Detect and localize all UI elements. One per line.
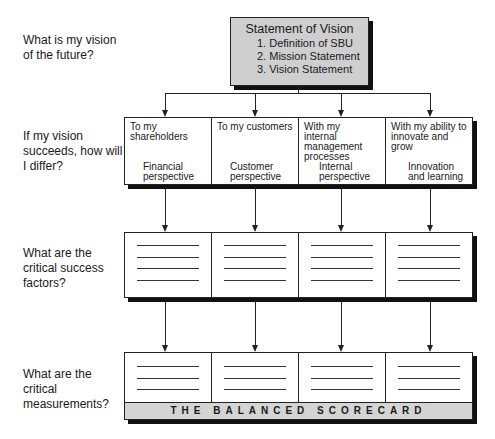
- perspective-customer: To my customers Customer perspective: [212, 118, 299, 184]
- connector: [341, 300, 342, 345]
- perspective-financial: To my shareholders Financial perspective: [125, 118, 212, 184]
- perspective-to: To my customers: [217, 122, 296, 132]
- arrow-down-icon: [252, 345, 258, 352]
- connector: [165, 187, 166, 225]
- perspective-name: Internal perspective: [319, 162, 379, 182]
- csf-cell: [386, 233, 472, 297]
- csf-cell: [299, 233, 386, 297]
- question-differ: If my vision succeeds, how will I differ…: [23, 129, 123, 174]
- question-measurements: What are the critical measurements?: [23, 367, 123, 412]
- arrow-down-icon: [338, 345, 344, 352]
- arrow-down-icon: [162, 225, 168, 232]
- perspectives-box: To my shareholders Financial perspective…: [124, 117, 473, 185]
- arrow-down-icon: [162, 345, 168, 352]
- vision-item: 1. Definition of SBU: [257, 37, 368, 50]
- perspective-internal: With my internal management processes In…: [299, 118, 386, 184]
- arrow-down-icon: [427, 345, 433, 352]
- connector: [298, 85, 299, 93]
- connector: [165, 93, 431, 94]
- vision-statement-box: Statement of Vision 1. Definition of SBU…: [230, 17, 369, 86]
- connector: [255, 187, 256, 225]
- success-factors-box: [124, 232, 473, 298]
- connector: [341, 93, 342, 111]
- balanced-scorecard-banner: THE BALANCED SCORECARD: [125, 403, 472, 419]
- vision-item: 2. Mission Statement: [257, 50, 368, 63]
- connector: [341, 187, 342, 225]
- question-success-factors: What are the critical success factors?: [23, 246, 123, 291]
- perspective-to: With my ability to innovate and grow: [391, 122, 471, 152]
- arrow-down-icon: [252, 225, 258, 232]
- perspective-name: Financial perspective: [143, 162, 203, 182]
- connector: [255, 300, 256, 345]
- measure-cell: [386, 353, 472, 402]
- csf-cell: [212, 233, 299, 297]
- connector: [430, 93, 431, 111]
- connector: [430, 187, 431, 225]
- perspective-to: With my internal management processes: [304, 122, 374, 162]
- measurements-box: THE BALANCED SCORECARD: [124, 352, 473, 420]
- question-vision: What is my vision of the future?: [23, 33, 123, 63]
- arrow-down-icon: [427, 110, 433, 117]
- perspective-innovation: With my ability to innovate and grow Inn…: [386, 118, 472, 184]
- arrow-down-icon: [338, 225, 344, 232]
- vision-item: 3. Vision Statement: [257, 63, 368, 76]
- connector: [165, 300, 166, 345]
- csf-cell: [125, 233, 212, 297]
- arrow-down-icon: [338, 110, 344, 117]
- vision-title: Statement of Vision: [231, 22, 368, 36]
- arrow-down-icon: [252, 110, 258, 117]
- connector: [430, 300, 431, 345]
- arrow-down-icon: [162, 110, 168, 117]
- connector: [165, 93, 166, 111]
- arrow-down-icon: [427, 225, 433, 232]
- perspective-to: To my shareholders: [130, 122, 209, 142]
- measure-cell: [299, 353, 386, 402]
- perspective-name: Innovation and learning: [408, 162, 468, 182]
- measure-cell: [212, 353, 299, 402]
- measure-cell: [125, 353, 212, 402]
- connector: [255, 93, 256, 111]
- perspective-name: Customer perspective: [230, 162, 290, 182]
